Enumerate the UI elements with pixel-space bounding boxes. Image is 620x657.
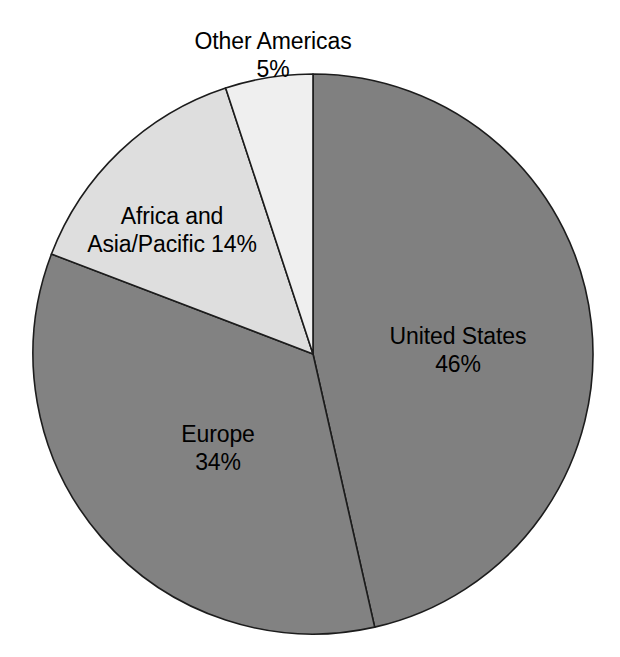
pie-label-europe-name: Europe <box>181 421 255 447</box>
pie-chart: Other Americas 5% Africa and Asia/Pacifi… <box>0 0 620 657</box>
pie-label-united-states: United States 46% <box>368 322 548 378</box>
pie-label-united-states-value: 46% <box>368 350 548 378</box>
pie-label-europe-value: 34% <box>138 448 298 476</box>
pie-label-other-americas-value: 5% <box>158 55 388 83</box>
pie-label-africa-asia-pacific-name: Africa and <box>121 203 224 229</box>
pie-label-other-americas-name: Other Americas <box>194 28 351 54</box>
pie-label-europe: Europe 34% <box>138 420 298 476</box>
pie-label-other-americas: Other Americas 5% <box>158 27 388 83</box>
pie-label-africa-asia-pacific-value: Asia/Pacific 14% <box>52 230 292 258</box>
pie-label-united-states-name: United States <box>390 323 527 349</box>
pie-label-africa-asia-pacific: Africa and Asia/Pacific 14% <box>52 202 292 258</box>
